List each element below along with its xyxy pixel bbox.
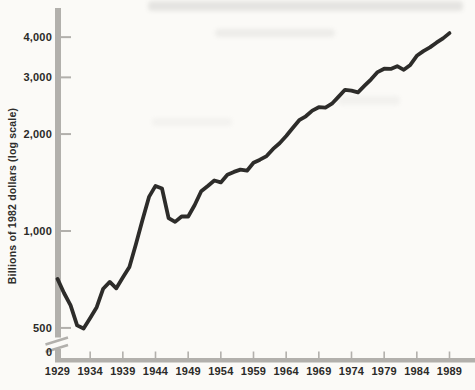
x-tick-label: 1974: [333, 365, 369, 378]
x-tick-label: 1964: [268, 365, 304, 378]
y-tick-label: 4,000: [2, 31, 52, 43]
chart-figure: Billions of 1982 dollars (log scale) 4,0…: [0, 0, 475, 390]
x-tick-label: 1944: [137, 365, 173, 378]
y-origin-label: 0: [2, 346, 52, 358]
x-tick-label: 1934: [72, 365, 108, 378]
x-tick-label: 1929: [40, 365, 76, 378]
x-tick-label: 1984: [399, 365, 435, 378]
x-ticks: [90, 352, 449, 359]
gnp-line-path: [58, 33, 450, 328]
chart-canvas: [0, 0, 475, 390]
y-tick-label: 500: [2, 322, 52, 334]
x-tick-label: 1939: [105, 365, 141, 378]
y-ticks: [61, 37, 71, 328]
y-axis-bar: [55, 8, 61, 362]
x-tick-label: 1979: [366, 365, 402, 378]
x-tick-label: 1954: [203, 365, 239, 378]
x-axis-bar: [55, 358, 475, 363]
x-tick-label: 1959: [235, 365, 271, 378]
y-tick-label: 2,000: [2, 128, 52, 140]
y-tick-label: 3,000: [2, 71, 52, 83]
x-tick-label: 1969: [301, 365, 337, 378]
x-tick-label: 1949: [170, 365, 206, 378]
y-tick-label: 1,000: [2, 225, 52, 237]
x-tick-label: 1989: [431, 365, 467, 378]
